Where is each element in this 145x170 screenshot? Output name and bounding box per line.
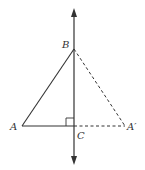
arrow-up-icon xyxy=(71,8,77,17)
right-angle-marker xyxy=(66,118,74,126)
label-a-prime: A′ xyxy=(126,121,137,132)
label-a: A xyxy=(9,121,17,132)
label-c: C xyxy=(77,130,85,141)
label-b: B xyxy=(61,39,69,50)
segment-ab xyxy=(22,49,74,126)
segment-ba-prime xyxy=(74,49,125,126)
reflection-diagram: B A C A′ xyxy=(0,0,145,170)
arrow-down-icon xyxy=(71,156,77,165)
